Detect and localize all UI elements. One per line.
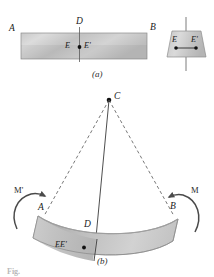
caption-a: (a): [92, 70, 103, 79]
label-b-center-of-curvature: C: [114, 92, 120, 102]
label-b-points-ee-prime: EE': [55, 241, 67, 249]
label-a-point-e: E: [65, 42, 70, 50]
figure-bottom-caption: Fig.: [7, 268, 20, 276]
label-b-left-end: A: [38, 203, 44, 213]
label-b-section-d: D: [84, 220, 91, 230]
label-a-point-e-prime: E': [84, 42, 91, 50]
label-moment-right: M: [191, 186, 199, 195]
label-cross-section-point-e-prime: E': [191, 36, 198, 44]
figure-drawing: [0, 0, 214, 277]
point-ee-prime-dot: [78, 45, 82, 49]
cross-section-point-e-dot: [174, 46, 178, 50]
label-a-left-end: A: [9, 24, 15, 34]
cross-section-point-e-prime-dot: [194, 46, 198, 50]
label-cross-section-point-e: E: [172, 36, 177, 44]
label-a-right-end: B: [150, 23, 156, 33]
caption-b: (b): [97, 257, 108, 266]
curved-point-ee-prime-dot: [82, 246, 86, 250]
radius-line-to-d: [95, 100, 109, 248]
label-moment-left: M': [14, 186, 23, 195]
label-a-section-d: D: [76, 17, 83, 27]
radius-line-to-b: [109, 100, 174, 216]
bent-beam-group: [14, 98, 199, 261]
label-b-right-end: B: [170, 202, 176, 212]
figure-container: A B D E E' E E' (a) C A B D EE' M' M (b)…: [0, 0, 214, 277]
